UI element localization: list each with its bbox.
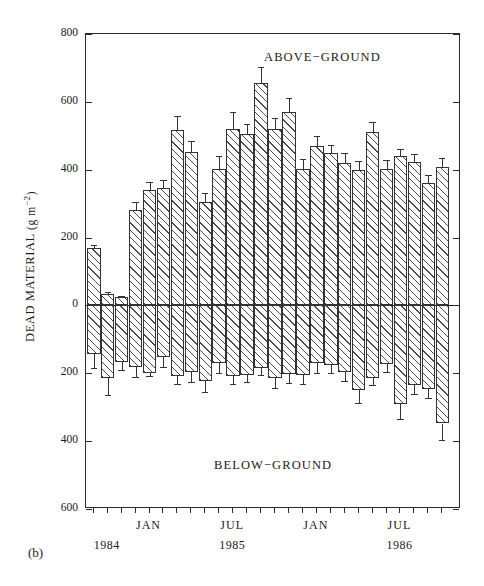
bar: [366, 305, 380, 378]
error-bar: [163, 357, 164, 367]
x-tick-mark: [246, 508, 247, 513]
error-bar-cap: [132, 202, 138, 203]
y-tick-mark: [86, 170, 92, 171]
error-bar: [219, 363, 220, 373]
error-bar-cap: [160, 367, 166, 368]
bar: [352, 305, 366, 389]
x-tick-mark: [260, 508, 261, 513]
bar: [226, 129, 240, 305]
bar: [212, 169, 226, 306]
x-tick-mark: [386, 508, 387, 513]
bar: [422, 183, 436, 305]
error-bar: [205, 193, 206, 202]
error-bar-cap: [258, 67, 264, 68]
error-bar-cap: [425, 398, 431, 399]
y-tick-mark-right: [453, 170, 459, 171]
error-bar: [191, 372, 192, 382]
figure-panel-b: DEAD MATERIAL (g m−2) 800600400200020040…: [0, 0, 484, 586]
x-tick-mark: [190, 508, 191, 513]
y-tick-mark-right: [453, 509, 459, 510]
error-bar-cap: [355, 161, 361, 162]
error-bar-cap: [369, 385, 375, 386]
error-bar-cap: [383, 160, 389, 161]
bar: [240, 134, 254, 305]
y-axis-label-main: DEAD MATERIAL: [23, 234, 37, 342]
error-bar: [442, 158, 443, 167]
bar: [436, 305, 450, 423]
error-bar: [191, 141, 192, 152]
error-bar-cap: [272, 118, 278, 119]
error-bar: [233, 112, 234, 129]
x-tick-mark: [149, 508, 150, 513]
bar: [240, 305, 254, 375]
error-bar-cap: [341, 381, 347, 382]
y-axis-label: DEAD MATERIAL (g m−2): [22, 166, 39, 366]
y-tick-mark-right: [453, 102, 459, 103]
error-bar: [233, 376, 234, 384]
y-tick-mark-right: [453, 373, 459, 374]
x-tick-mark: [121, 508, 122, 513]
error-bar: [275, 118, 276, 129]
y-tick-mark-right: [453, 441, 459, 442]
bar: [268, 129, 282, 305]
bar: [380, 169, 394, 305]
x-axis-month-label: JUL: [388, 518, 412, 533]
error-bar-cap: [91, 245, 97, 246]
error-bar: [428, 389, 429, 399]
y-tick-mark-right: [453, 305, 459, 306]
bar: [254, 305, 268, 367]
error-bar: [177, 116, 178, 130]
error-bar-cap: [328, 145, 334, 146]
bar: [115, 305, 129, 362]
y-tick-mark: [86, 509, 92, 510]
bar: [268, 305, 282, 378]
error-bar-cap: [300, 159, 306, 160]
error-bar-cap: [314, 136, 320, 137]
error-bar-cap: [328, 373, 334, 374]
error-bar-cap: [300, 384, 306, 385]
bar: [254, 83, 268, 305]
x-tick-mark: [413, 508, 414, 513]
error-bar: [219, 156, 220, 169]
error-bar: [108, 378, 109, 396]
bar: [226, 305, 240, 376]
error-bar: [387, 160, 388, 170]
error-bar: [247, 124, 248, 134]
x-tick-mark: [135, 508, 136, 513]
bar: [171, 305, 185, 376]
bar: [324, 305, 338, 364]
x-tick-mark: [302, 508, 303, 513]
y-axis-label-units: (g m: [24, 206, 36, 230]
error-bar-cap: [411, 394, 417, 395]
x-tick-mark: [441, 508, 442, 513]
x-axis-year-label: 1985: [219, 538, 245, 553]
x-tick-mark: [358, 508, 359, 513]
bar: [199, 305, 213, 380]
error-bar: [94, 354, 95, 368]
error-bar: [122, 362, 123, 369]
error-bar-cap: [118, 296, 124, 297]
bar: [296, 305, 310, 375]
error-bar-cap: [425, 175, 431, 176]
error-bar: [359, 390, 360, 404]
error-bar-cap: [188, 141, 194, 142]
y-axis-label-close: ): [24, 191, 36, 195]
error-bar: [373, 378, 374, 385]
error-bar-cap: [383, 372, 389, 373]
error-bar: [136, 367, 137, 377]
y-tick-label: 200: [44, 366, 78, 378]
bar: [143, 190, 157, 305]
error-bar: [136, 202, 137, 209]
bar: [157, 188, 171, 305]
bar: [282, 112, 296, 305]
bar: [212, 305, 226, 363]
error-bar: [317, 363, 318, 373]
bar: [129, 305, 143, 367]
bar: [115, 297, 129, 305]
bar: [324, 153, 338, 306]
bar: [310, 146, 324, 305]
error-bar-cap: [230, 384, 236, 385]
x-tick-mark: [372, 508, 373, 513]
error-bar-cap: [202, 193, 208, 194]
bar: [129, 210, 143, 306]
